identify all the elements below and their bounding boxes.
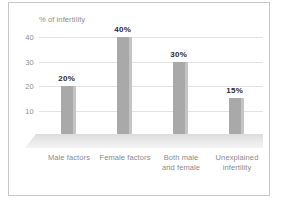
bar-value-label: 15% bbox=[226, 86, 243, 95]
plot-floor bbox=[25, 134, 263, 148]
chart-frame: % of infertility 40 30 20 10 20% 40% bbox=[8, 2, 270, 196]
y-tick-label-30: 30 bbox=[25, 57, 34, 66]
gridline-40: 40 bbox=[39, 37, 263, 38]
category-line: Both male bbox=[162, 153, 200, 163]
category-line: infertility bbox=[216, 163, 259, 173]
category-label-female-factors: Female factors bbox=[100, 153, 151, 163]
category-label-both-male-and-female: Both male and female bbox=[162, 153, 200, 173]
y-tick-label-10: 10 bbox=[25, 106, 34, 115]
y-axis-title: % of infertility bbox=[39, 15, 85, 24]
category-label-unexplained-infertility: Unexplained infertility bbox=[216, 153, 259, 173]
bar-both-male-and-female[interactable]: 30% bbox=[173, 62, 188, 135]
y-tick-label-20: 20 bbox=[25, 82, 34, 91]
chart-screenshot: % of infertility 40 30 20 10 20% 40% bbox=[0, 0, 281, 207]
bar-value-label: 40% bbox=[114, 25, 131, 34]
category-line: Unexplained bbox=[216, 153, 259, 163]
bar-value-label: 20% bbox=[58, 74, 75, 83]
x-axis-category-labels: Male factors Female factors Both male an… bbox=[39, 153, 263, 189]
plot-area: 40 30 20 10 20% 40% 30% 15% bbox=[39, 25, 263, 135]
category-line: Male factors bbox=[48, 153, 90, 163]
category-label-male-factors: Male factors bbox=[48, 153, 90, 163]
bar-unexplained-infertility[interactable]: 15% bbox=[229, 98, 244, 135]
category-line: Female factors bbox=[100, 153, 151, 163]
category-line: and female bbox=[162, 163, 200, 173]
bar-female-factors[interactable]: 40% bbox=[117, 37, 132, 135]
bar-male-factors[interactable]: 20% bbox=[61, 86, 76, 135]
y-tick-label-40: 40 bbox=[25, 33, 34, 42]
gridline-30: 30 bbox=[39, 62, 263, 63]
bar-value-label: 30% bbox=[170, 50, 187, 59]
